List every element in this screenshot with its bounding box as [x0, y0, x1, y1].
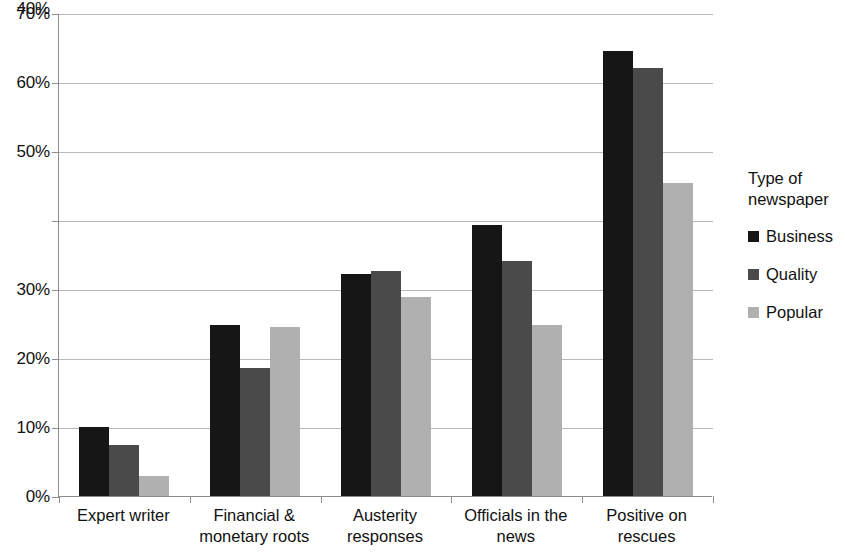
bar-chart: 70% 60% 50% 40% 30% 20% 10% 0% Expert wr… — [0, 0, 845, 559]
bar[interactable] — [210, 325, 240, 496]
bar[interactable] — [341, 274, 371, 496]
plot-area — [58, 14, 712, 497]
bar[interactable] — [633, 68, 663, 496]
legend-title: Type of newspaper — [748, 168, 845, 210]
y-tickmark — [52, 290, 59, 291]
bar[interactable] — [502, 261, 532, 496]
legend-item-business[interactable]: Business — [748, 228, 845, 245]
y-tick-label: 10% — [0, 419, 50, 436]
x-tick-label: Financial &monetary roots — [183, 505, 326, 547]
bar[interactable] — [603, 51, 633, 496]
legend-item-label: Quality — [766, 266, 817, 283]
x-axis: Expert writerFinancial &monetary rootsAu… — [58, 505, 712, 559]
legend-item-popular[interactable]: Popular — [748, 304, 845, 321]
y-tick-label: 0% — [0, 488, 50, 505]
y-tickmark — [52, 221, 59, 222]
legend-swatch-icon — [748, 231, 759, 242]
bar[interactable] — [472, 225, 502, 496]
y-tickmark — [52, 152, 59, 153]
bar[interactable] — [663, 183, 693, 496]
x-tickmark — [59, 496, 60, 503]
bar-group — [59, 13, 190, 496]
y-tickmark — [52, 497, 59, 498]
legend-item-label: Business — [766, 228, 833, 245]
bar-group — [321, 13, 452, 496]
x-tickmark — [582, 496, 583, 503]
bar-group — [451, 13, 582, 496]
y-tickmark — [52, 14, 59, 15]
legend: Type of newspaper Business Quality Popul… — [748, 168, 845, 342]
bar[interactable] — [532, 325, 562, 496]
y-tick-label: 50% — [0, 143, 50, 160]
x-tick-label: Officials in thenews — [444, 505, 587, 547]
x-tick-label: Austerityresponses — [314, 505, 457, 547]
x-tickmark — [713, 496, 714, 503]
bar[interactable] — [270, 327, 300, 496]
y-tick-label: 20% — [0, 350, 50, 367]
x-tick-label: Positive onrescues — [575, 505, 718, 547]
bar-group — [582, 13, 713, 496]
legend-item-label: Popular — [766, 304, 823, 321]
bar-group — [190, 13, 321, 496]
y-tick-label: 60% — [0, 74, 50, 91]
bar[interactable] — [240, 368, 270, 496]
y-tick-label: 30% — [0, 281, 50, 298]
legend-swatch-icon — [748, 307, 759, 318]
y-tick-label: 40% — [0, 0, 50, 17]
bar[interactable] — [401, 297, 431, 496]
x-tickmark — [190, 496, 191, 503]
legend-swatch-icon — [748, 269, 759, 280]
y-tickmark — [52, 428, 59, 429]
y-tickmark — [52, 359, 59, 360]
bar[interactable] — [139, 476, 169, 496]
x-tickmark — [321, 496, 322, 503]
x-tickmark — [451, 496, 452, 503]
y-axis: 70% 60% 50% 40% 30% 20% 10% 0% — [0, 0, 50, 559]
bar[interactable] — [79, 427, 109, 496]
bar[interactable] — [371, 271, 401, 496]
legend-item-quality[interactable]: Quality — [748, 266, 845, 283]
x-tick-label: Expert writer — [52, 505, 195, 526]
bar[interactable] — [109, 445, 139, 496]
y-tickmark — [52, 83, 59, 84]
